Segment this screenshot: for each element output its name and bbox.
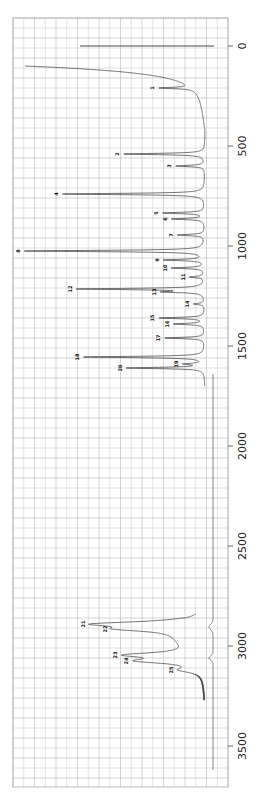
axis-tick-label: 1500 [236,332,249,360]
spectrum-chart: 0500100015002000250030003500 12345678910… [0,0,265,806]
peak-label: 15 [149,314,155,321]
peak-label: 14 [184,300,190,307]
axis-tick-label: 2000 [236,432,249,460]
peak-label: 16 [164,320,170,327]
peak-label: 8 [15,249,21,253]
peak-label: 5 [153,211,159,215]
peak-label: 20 [117,364,123,371]
peak-label: 12 [67,285,73,292]
peak-label: 7 [168,233,174,237]
peak-label: 9 [154,258,160,262]
chart-grid [13,18,228,787]
axis-tick-label: 500 [236,136,249,157]
peak-label: 3 [166,164,172,168]
peak-label: 4 [53,192,59,196]
peak-label: 1 [149,86,155,90]
peak-label: 10 [162,264,168,271]
peak-label: 6 [162,217,168,221]
axis-tick-label: 2500 [236,532,249,560]
wavenumber-axis: 0500100015002000250030003500 [228,43,249,761]
peak-label: 2 [114,152,120,156]
peak-label: 19 [173,360,179,367]
peak-label: 23 [112,651,118,658]
axis-tick-label: 1000 [236,232,249,260]
peak-label: 22 [102,625,108,632]
axis-tick-label: 0 [236,43,249,50]
axis-tick-label: 3000 [236,632,249,660]
reference-baseline-trace [209,374,213,770]
peak-label: 24 [123,657,129,664]
peak-label: 18 [74,353,80,360]
axis-tick-label: 3500 [236,732,249,760]
peak-label: 17 [155,334,161,341]
peak-label: 11 [180,273,186,280]
peak-label: 25 [168,666,174,673]
peak-label: 21 [80,620,86,627]
peak-label: 13 [151,288,157,295]
